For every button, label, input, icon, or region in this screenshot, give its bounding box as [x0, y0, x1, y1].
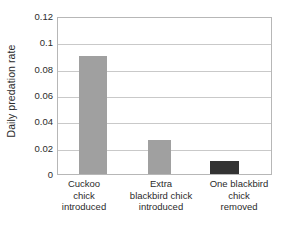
x-tick-label: Cuckoo chick introduced	[48, 178, 120, 213]
bar-cuckoo-chick-introduced	[79, 56, 107, 175]
y-tick-label: 0.08	[16, 65, 53, 75]
y-tick-label: 0.02	[16, 144, 53, 154]
y-tick-label: 0.12	[16, 12, 53, 22]
y-tick-label: 0.06	[16, 91, 53, 101]
x-tick-label: One blackbird chick removed	[196, 178, 282, 213]
plot-area	[57, 17, 272, 175]
bar-one-blackbird-chick-removed	[210, 161, 239, 174]
x-tick-label: Extra blackbird chick introduced	[118, 178, 204, 213]
bar-chart-figure: Daily predation rate 0.12 0.1 0.08 0.06 …	[0, 0, 285, 228]
y-tick-label: 0.04	[16, 117, 53, 127]
gridline	[58, 44, 271, 45]
bar-extra-blackbird-chick-introduced	[148, 140, 171, 174]
y-tick-label: 0.1	[16, 38, 53, 48]
